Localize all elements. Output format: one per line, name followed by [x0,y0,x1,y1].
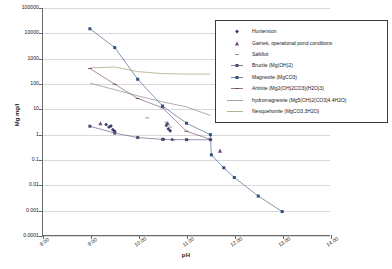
data-point [281,210,284,213]
legend-item-label: hydromagnesite (Mg5(OH)2(CO3)4.4H2O) [252,98,346,103]
legend-item-label: Nesquehonite (MgCO3.3H2O) [252,109,319,114]
data-point [104,123,108,127]
data-point [257,195,260,198]
data-point [218,149,222,153]
y-axis-tick-label: 10000 [25,31,39,36]
y-axis-tick-label: 100 [30,81,39,86]
chart-container: 1000001000010001001010.10.010.0010.0001 … [0,0,392,269]
data-point [210,153,213,156]
x-axis-title: pH [42,252,330,258]
legend-marker-icon [226,96,252,105]
x-axis-tick-label: 12.00 [230,236,244,248]
legend-marker-icon [226,84,252,93]
data-point [113,46,116,49]
y-axis-tick-label: 0.1 [32,157,39,162]
legend-item[interactable]: Magnesite (MgCO3) [216,72,387,83]
y-axis-tick-label: 10 [33,107,39,112]
data-point [161,138,164,141]
x-axis-tick-label: 13.00 [278,236,292,248]
y-axis-title: Mg mg/l [14,85,20,145]
data-point [185,122,188,125]
legend-marker-icon [226,50,252,59]
series-line [90,67,211,74]
y-axis-tick-label: 1000 [27,56,39,61]
data-series [88,125,212,141]
legend-item-label: Salkfiot [252,52,268,57]
legend-item[interactable]: Brucite (Mg(OH)2) [216,60,387,71]
data-point [209,133,212,136]
x-axis-tick-label: 14.00 [326,236,340,248]
data-point [233,176,236,179]
series-line [90,83,211,115]
legend-marker-icon [226,27,252,36]
x-axis-tick-label: 10.00 [134,236,148,248]
data-point [88,125,91,128]
x-axis-tick-label: 9.00 [87,237,98,247]
y-axis-tick-label: 0.0001 [23,233,39,238]
data-point [98,121,102,125]
data-series [90,83,211,115]
data-point [113,132,116,135]
data-point [222,166,225,169]
legend-marker-icon [226,61,252,70]
x-axis-tick-label: 8.00 [39,237,50,247]
y-axis-tick-label: 100000 [22,5,39,10]
legend-item[interactable]: hydromagnesite (Mg5(OH)2(CO3)4.4H2O) [216,94,387,105]
data-point [161,105,164,108]
legend-marker-icon [226,73,252,82]
legend-marker-icon [226,107,252,116]
legend-item-label: Artinite (Mg2(OH)2CO3)(H2O)3) [252,86,324,91]
data-point [88,27,91,30]
data-series [90,67,211,74]
legend-item-label: Garnek, operational pond conditions [252,41,332,46]
legend-item-label: Magnesite (MgCO3) [252,75,297,80]
legend-marker-icon [226,39,252,48]
legend-item[interactable]: Artinite (Mg2(OH)2CO3)(H2O)3) [216,83,387,94]
legend-item[interactable]: Garnek, operational pond conditions [216,37,387,48]
legend-item[interactable]: Hunterston [216,26,387,37]
data-point [136,78,139,81]
chart-legend: HunterstonGarnek, operational pond condi… [215,20,388,123]
y-axis-tick-label: 1 [36,132,39,137]
legend-item-label: Hunterston [252,29,276,34]
legend-item[interactable]: Nesquehonite (MgCO3.3H2O) [216,106,387,117]
series-line [90,68,211,139]
x-axis-tick-label: 11.00 [182,236,195,247]
y-axis-tick-label: 0.01 [29,183,39,188]
data-series [88,68,213,139]
data-point [136,136,139,139]
legend-item-label: Brucite (Mg(OH)2) [252,63,293,68]
y-axis-tick-label: 0.001 [26,208,39,213]
legend-item[interactable]: Salkfiot [216,49,387,60]
data-point [185,138,188,141]
